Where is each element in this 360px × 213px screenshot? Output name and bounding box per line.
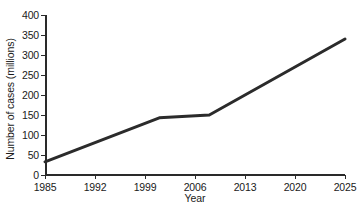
x-tick-mark — [145, 175, 146, 179]
x-tick-mark — [295, 175, 296, 179]
x-axis-title: Year — [45, 192, 345, 205]
y-tick-label: 400 — [22, 10, 39, 21]
y-tick-label: 350 — [22, 30, 39, 41]
y-axis-title: Number of cases (millions) — [2, 14, 18, 184]
x-tick-mark — [95, 175, 96, 179]
x-tick-mark — [245, 175, 246, 179]
x-tick-mark — [345, 175, 346, 179]
y-tick-label: 100 — [22, 130, 39, 141]
series-line-number-of-cases — [45, 15, 345, 175]
y-tick-label: 300 — [22, 50, 39, 61]
plot-area: 050100150200250300350400 198519921999200… — [45, 15, 345, 175]
x-tick-mark — [45, 175, 46, 179]
y-tick-label: 200 — [22, 90, 39, 101]
line-chart-figure: Number of cases (millions) 0501001502002… — [0, 0, 360, 213]
y-tick-label: 150 — [22, 110, 39, 121]
y-tick-label: 50 — [28, 150, 39, 161]
y-tick-label: 0 — [33, 170, 39, 181]
y-tick-label: 250 — [22, 70, 39, 81]
x-tick-mark — [195, 175, 196, 179]
